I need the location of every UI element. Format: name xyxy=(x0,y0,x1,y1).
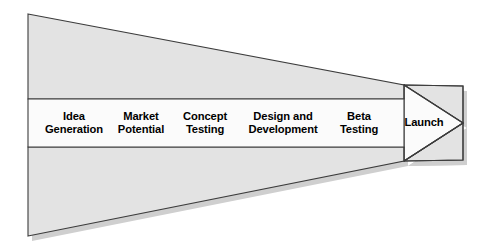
funnel-top-wedge xyxy=(28,14,404,99)
funnel-stage-band xyxy=(28,99,404,147)
funnel-bottom-wedge xyxy=(28,147,404,236)
funnel-diagram: Idea Generation Market Potential Concept… xyxy=(0,0,493,249)
funnel-graphic xyxy=(0,0,493,249)
